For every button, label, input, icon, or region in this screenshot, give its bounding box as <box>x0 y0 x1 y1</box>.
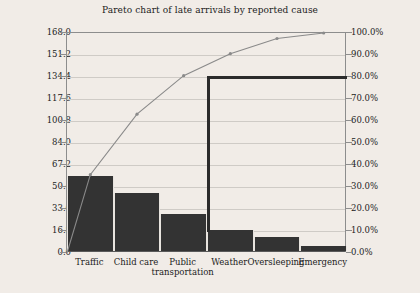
percent-axis-tick-label: 10.0% <box>351 225 411 235</box>
eighty-percent-horizontal-line <box>207 76 347 79</box>
plot-area <box>66 32 346 252</box>
category-label: Traffic <box>75 257 103 267</box>
percent-axis-tick-label: 40.0% <box>351 159 411 169</box>
y-axis-tick-mark <box>60 252 66 253</box>
cumulative-point-marker <box>322 31 325 34</box>
cumulative-point-marker <box>229 52 232 55</box>
percent-axis-tick-label: 90.0% <box>351 49 411 59</box>
pareto-chart-figure: Pareto chart of late arrivals by reporte… <box>0 0 420 293</box>
category-label: Emergency <box>298 257 347 267</box>
percent-axis-tick-label: 30.0% <box>351 181 411 191</box>
percent-axis-tick-label: 70.0% <box>351 93 411 103</box>
percent-axis-tick-label: 0.0% <box>351 247 411 257</box>
cumulative-point-marker <box>182 74 185 77</box>
percent-axis-tick-label: 50.0% <box>351 137 411 147</box>
eighty-percent-vertical-line <box>207 76 210 232</box>
percent-axis-tick-label: 60.0% <box>351 115 411 125</box>
percent-axis-tick-label: 80.0% <box>351 71 411 81</box>
cumulative-line-path <box>67 33 324 253</box>
category-label: Publictransportation <box>152 257 214 277</box>
cumulative-point-marker <box>89 173 92 176</box>
chart-title: Pareto chart of late arrivals by reporte… <box>0 5 420 15</box>
percent-axis-tick-label: 20.0% <box>351 203 411 213</box>
cumulative-point-marker <box>135 113 138 116</box>
category-label: Oversleeping <box>247 257 304 267</box>
percent-axis-tick-label: 100.0% <box>351 27 411 37</box>
category-label: Weather <box>211 257 247 267</box>
cumulative-point-marker <box>275 37 278 40</box>
